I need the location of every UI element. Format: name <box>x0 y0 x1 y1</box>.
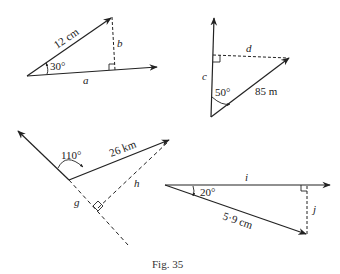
adjacent-side-a <box>27 67 157 76</box>
adjacent-side-c <box>211 18 214 117</box>
triangle-3: 110° 26 km g h <box>18 131 169 245</box>
side-j-label: j <box>311 203 316 215</box>
angle-label: 110° <box>61 149 82 161</box>
side-c-label: c <box>202 70 207 82</box>
hypotenuse-label: 12 cm <box>51 25 81 50</box>
triangle-1: 12 cm 30° a b <box>27 17 157 86</box>
opposite-side-d-dashed <box>213 55 288 58</box>
side-d-label: d <box>246 42 252 54</box>
right-angle-marker <box>301 185 307 191</box>
figure-caption: Fig. 35 <box>152 258 184 270</box>
adjacent-side-g-dashed <box>69 180 128 245</box>
triangle-2: c d 50° 85 m <box>202 18 289 117</box>
opposite-side-b-dashed <box>112 17 115 70</box>
right-angle-marker <box>109 64 115 70</box>
hypotenuse-5-9cm <box>165 185 306 234</box>
hypotenuse-label: 85 m <box>255 85 278 97</box>
side-b-label: b <box>117 37 123 49</box>
hypotenuse-12cm <box>27 18 111 76</box>
side-g-label: g <box>74 196 80 208</box>
angle-label: 50° <box>215 86 230 98</box>
right-angle-marker <box>213 55 220 62</box>
triangle-4: i 20° 5·9 cm j <box>165 171 330 234</box>
side-a-label: a <box>83 74 89 86</box>
side-i-label: i <box>245 171 248 183</box>
angle-arc <box>212 97 230 104</box>
hypotenuse-label: 5·9 cm <box>221 210 254 232</box>
side-h-label: h <box>134 177 140 189</box>
angle-label: 20° <box>200 186 215 198</box>
right-angle-marker <box>93 201 103 211</box>
angle-arc <box>193 186 194 196</box>
angle-arc <box>46 63 48 74</box>
figure-canvas: 12 cm 30° a b c d 50° 85 m 110° 26 km g … <box>0 0 340 274</box>
angle-label: 30° <box>50 60 65 72</box>
hypotenuse-label: 26 km <box>107 138 138 159</box>
